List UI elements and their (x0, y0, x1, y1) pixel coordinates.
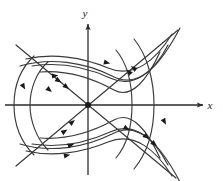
trajectory-left-branch-inner (30, 62, 48, 150)
trajectory-right-branch-inner (116, 50, 132, 158)
flow-arrow-right-1 (161, 118, 169, 126)
separatrix-stable-nw-se (16, 45, 176, 178)
flow-arrow-ul-3 (20, 83, 28, 91)
trajectory-lower-sweep-inner (40, 118, 160, 158)
trajectory-upper-left-outer (26, 34, 172, 71)
phase-portrait-figure: x y (0, 0, 223, 181)
flow-arrow-top-1 (103, 59, 110, 66)
trajectory-lower-left-mid (32, 129, 168, 165)
flow-arrow-ul-2 (45, 86, 53, 94)
saddle-equilibrium-point (85, 102, 91, 108)
trajectory-lower-left-outer (26, 139, 172, 176)
trajectory-upper-sweep-inner (40, 52, 160, 92)
y-axis-label: y (82, 7, 88, 19)
x-axis-label: x (207, 99, 213, 111)
phase-portrait-canvas: x y (0, 0, 223, 181)
flow-arrow-ll-2 (61, 127, 69, 135)
